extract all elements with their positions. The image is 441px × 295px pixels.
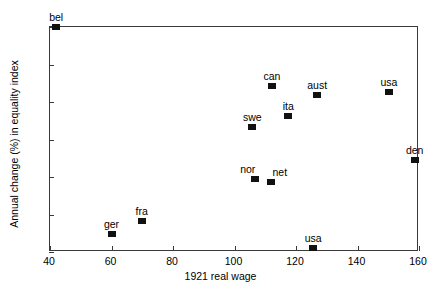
x-tick-mark [296,246,297,251]
data-point-label: aust [307,80,327,91]
data-point-marker [309,245,317,251]
x-tick-label: 100 [225,255,243,267]
x-axis-label: 1921 real wage [0,270,441,282]
data-point-marker [251,176,259,182]
y-axis-label: Annual change (%) in equality index [8,44,20,244]
y-tick-mark [49,177,54,178]
x-tick-label: 80 [166,255,178,267]
x-tick-mark [419,246,420,251]
data-point-label: fra [135,206,147,217]
data-point-marker [313,92,321,98]
data-point-marker [248,124,256,130]
x-tick-mark [235,246,236,251]
data-point-marker [385,89,393,95]
plot-area: belgerfraswenornetcanitausaaustusaden [49,26,418,251]
data-point-label: ger [104,219,119,230]
data-point-marker [284,113,292,119]
x-tick-label: 120 [286,255,304,267]
x-tick-mark [50,246,51,251]
data-point-marker [108,231,116,237]
x-tick-label: 40 [43,255,55,267]
data-point-label: ita [283,100,294,111]
data-point-label: swe [243,111,262,122]
data-point-marker [267,179,275,185]
x-tick-label: 140 [348,255,366,267]
x-tick-mark [358,246,359,251]
data-point-label: bel [49,12,63,23]
data-point-label: den [406,145,424,156]
y-tick-mark [49,102,54,103]
data-point-marker [138,218,146,224]
y-tick-mark [49,140,54,141]
data-point-label: can [264,70,281,81]
data-point-label: net [272,166,287,177]
x-tick-mark [112,246,113,251]
data-point-label: usa [305,233,322,244]
data-point-label: nor [240,163,255,174]
scatter-plot-figure: Annual change (%) in equality index 1921… [0,0,441,295]
data-point-marker [268,83,276,89]
y-tick-mark [49,65,54,66]
y-tick-mark [49,215,54,216]
x-tick-label: 160 [409,255,427,267]
data-point-marker [52,24,60,30]
x-tick-label: 60 [105,255,117,267]
data-point-label: usa [380,76,397,87]
data-point-marker [411,157,419,163]
x-tick-mark [173,246,174,251]
y-tick-mark [49,252,54,253]
